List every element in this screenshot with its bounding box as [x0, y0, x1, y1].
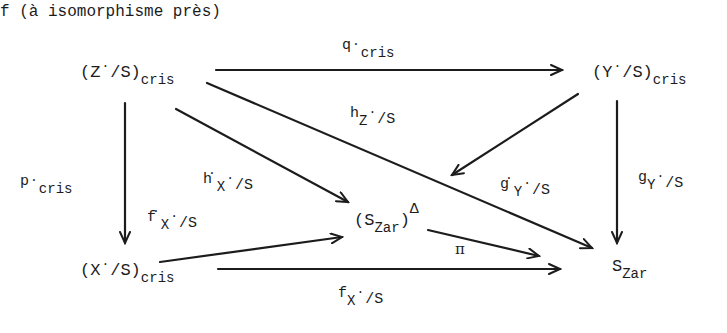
label-h-x: h·X·/S	[203, 178, 253, 193]
arrow-h-x	[176, 109, 348, 202]
arrow-f-x-dot	[160, 237, 342, 262]
label-pi: π	[455, 242, 465, 257]
label-h-z: hZ·/S	[350, 112, 395, 127]
label-f-x: fX·/S	[338, 292, 383, 307]
header-text: f (à isomorphisme près)	[0, 4, 221, 20]
label-f-x-dot: f·X·/S	[147, 216, 197, 231]
node-y-cris: (Y·/S)cris	[592, 64, 686, 81]
arrow-g-y-dot	[452, 94, 578, 175]
node-z-cris: (Z·/S)cris	[80, 64, 174, 81]
label-p-cris: p·cris	[20, 180, 72, 195]
node-x-cris: (X·/S)cris	[80, 262, 174, 279]
node-s-zar-delta: (SZar)Δ	[354, 212, 419, 229]
arrow-pi	[428, 230, 539, 256]
node-s-zar: SZar	[612, 258, 647, 275]
label-q-cris: q·cris	[342, 44, 394, 59]
label-g-y-dot: g·Y·/S	[500, 183, 550, 198]
label-g-y: gY·/S	[638, 176, 683, 191]
